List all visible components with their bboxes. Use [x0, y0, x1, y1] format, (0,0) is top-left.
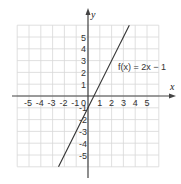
y-tick-label: 4	[81, 44, 86, 54]
x-tick-label: -2	[59, 98, 67, 108]
x-tick-label: 5	[145, 98, 150, 108]
y-axis-label: y	[90, 9, 96, 20]
x-tick-label: 1	[97, 98, 102, 108]
x-tick-label: 3	[121, 98, 126, 108]
x-tick-label: -3	[48, 98, 56, 108]
y-axis-arrow-icon	[86, 8, 91, 15]
x-tick-label: -1	[71, 98, 79, 108]
y-tick-label: -4	[79, 139, 87, 149]
y-tick-label: -5	[79, 151, 87, 161]
x-tick-label: -4	[36, 98, 44, 108]
equation-label: f(x) = 2x − 1	[118, 62, 166, 72]
x-tick-label: 4	[133, 98, 138, 108]
y-tick-label: 1	[81, 80, 86, 90]
x-tick-label: 2	[109, 98, 114, 108]
y-tick-label: -3	[79, 127, 87, 137]
y-tick-label: 3	[81, 56, 86, 66]
coordinate-plane: x y -5-4-3-2-1012345 12345-1-2-3-4-5 f(x…	[0, 0, 181, 184]
x-axis-arrow-icon	[169, 94, 176, 99]
x-axis-label: x	[169, 81, 175, 92]
y-tick-label: 5	[81, 33, 86, 43]
y-tick-label: 2	[81, 68, 86, 78]
x-tick-label: -5	[24, 98, 32, 108]
